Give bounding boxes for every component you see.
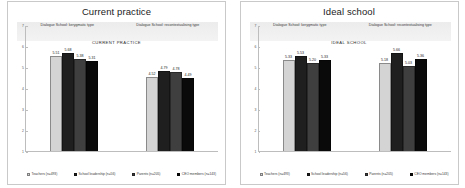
bar-wrap: 4.78 <box>170 26 182 151</box>
bar-group: 5.335.535.205.33 <box>259 26 355 151</box>
bar-wrap: 5.33 <box>283 26 295 151</box>
legend-swatch-icon <box>177 173 180 176</box>
legend-item[interactable]: CEO members (n=143) <box>177 172 216 176</box>
bar-value-label: 5.33 <box>285 55 292 59</box>
bar[interactable] <box>182 78 194 151</box>
legend-swatch-icon <box>410 173 413 176</box>
legend-swatch-icon <box>132 173 135 176</box>
bar-value-label: 5.36 <box>417 54 424 58</box>
figure-root: Current practiceDialogue School: kerygma… <box>0 0 465 188</box>
bar[interactable] <box>415 59 427 151</box>
bar[interactable] <box>283 60 295 151</box>
legend-swatch-icon <box>74 173 77 176</box>
bar-wrap: 5.68 <box>62 26 74 151</box>
bar-wrap: 5.18 <box>379 26 391 151</box>
bar-wrap: 5.66 <box>391 26 403 151</box>
bar-value-label: 5.18 <box>381 58 388 62</box>
legend-swatch-icon <box>307 173 310 176</box>
legend-label: CEO members (n=143) <box>182 172 216 176</box>
panel-border: Ideal schoolDialogue School: kerygmatic … <box>240 1 459 185</box>
legend-swatch-icon <box>365 173 368 176</box>
bar-groups: 5.335.535.205.335.185.665.035.36 <box>259 26 451 151</box>
bar-value-label: 4.52 <box>149 72 156 76</box>
legend-label: Parents (n=205) <box>137 172 161 176</box>
bar-group: 5.185.665.035.36 <box>355 26 451 151</box>
legend-swatch-icon <box>260 173 263 176</box>
bar-wrap: 5.53 <box>295 26 307 151</box>
chart-panel-ideal-school: Ideal schoolDialogue School: kerygmatic … <box>233 0 465 188</box>
legend-item[interactable]: School leadership (n=56) <box>74 172 115 176</box>
legend-item[interactable]: Parents (n=205) <box>132 172 160 176</box>
bar[interactable] <box>50 56 62 151</box>
bar[interactable] <box>379 63 391 151</box>
bar-value-label: 4.49 <box>185 73 192 77</box>
legend-label: Teachers (n=493) <box>32 172 58 176</box>
bar-value-label: 5.33 <box>321 55 328 59</box>
bar[interactable] <box>62 53 74 151</box>
legend-label: School leadership (n=56) <box>311 172 348 176</box>
bar-value-label: 5.51 <box>53 51 60 55</box>
bar-value-label: 5.68 <box>65 48 72 52</box>
bar-wrap: 4.49 <box>182 26 194 151</box>
bar-wrap: 4.52 <box>146 26 158 151</box>
bar-value-label: 4.79 <box>161 66 168 70</box>
bar[interactable] <box>170 72 182 151</box>
bar-value-label: 5.03 <box>405 61 412 65</box>
bar-wrap: 5.51 <box>50 26 62 151</box>
bar-wrap: 5.33 <box>319 26 331 151</box>
legend-item[interactable]: Parents (n=205) <box>365 172 393 176</box>
legend-label: Teachers (n=493) <box>264 172 290 176</box>
bar-wrap: 4.79 <box>158 26 170 151</box>
panel-border: Current practiceDialogue School: kerygma… <box>7 1 226 185</box>
bar[interactable] <box>74 59 86 151</box>
bar-group: 4.524.794.784.49 <box>122 26 218 151</box>
bar[interactable] <box>391 53 403 151</box>
legend-item[interactable]: Teachers (n=493) <box>260 172 290 176</box>
bar-value-label: 5.31 <box>89 56 96 60</box>
bar-value-label: 5.20 <box>309 58 316 62</box>
legend-label: Parents (n=205) <box>369 172 393 176</box>
legend-item[interactable]: School leadership (n=56) <box>307 172 348 176</box>
legend: Teachers (n=493)School leadership (n=56)… <box>258 172 451 176</box>
bar-groups: 5.515.685.385.314.524.794.784.49 <box>26 26 218 151</box>
bar-wrap: 5.20 <box>307 26 319 151</box>
bar-value-label: 4.78 <box>173 67 180 71</box>
legend-label: CEO members (n=143) <box>414 172 448 176</box>
panel-title: Ideal school <box>241 6 458 17</box>
bar[interactable] <box>158 71 170 151</box>
bar-value-label: 5.66 <box>393 48 400 52</box>
plot-area: 76543215.515.685.385.314.524.794.784.49 <box>25 26 218 152</box>
bar-value-label: 5.53 <box>297 51 304 55</box>
legend: Teachers (n=493)School leadership (n=56)… <box>25 172 218 176</box>
bar-wrap: 5.36 <box>415 26 427 151</box>
chart-panel-current-practice: Current practiceDialogue School: kerygma… <box>0 0 233 188</box>
bar[interactable] <box>403 66 415 151</box>
bar-group: 5.515.685.385.31 <box>26 26 122 151</box>
legend-swatch-icon <box>27 173 30 176</box>
bar[interactable] <box>307 63 319 151</box>
bar-wrap: 5.38 <box>74 26 86 151</box>
plot-area: 76543215.335.535.205.335.185.665.035.36 <box>258 26 451 152</box>
legend-item[interactable]: CEO members (n=143) <box>410 172 449 176</box>
panel-title: Current practice <box>8 6 225 17</box>
bar-wrap: 5.03 <box>403 26 415 151</box>
legend-label: School leadership (n=56) <box>79 172 116 176</box>
bar-value-label: 5.38 <box>77 54 84 58</box>
bar[interactable] <box>295 56 307 151</box>
bar[interactable] <box>146 77 158 151</box>
bar-wrap: 5.31 <box>86 26 98 151</box>
bar[interactable] <box>319 60 331 151</box>
bar[interactable] <box>86 61 98 152</box>
legend-item[interactable]: Teachers (n=493) <box>27 172 57 176</box>
